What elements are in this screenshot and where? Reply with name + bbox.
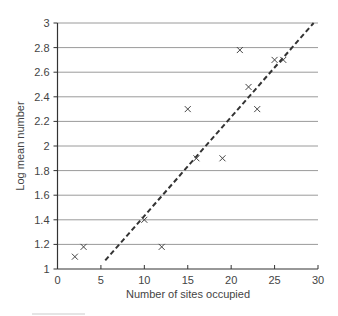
x-tick-label: 30 [312,274,324,286]
x-tick-label: 0 [54,274,60,286]
y-tick-label: 1 [43,263,49,275]
x-tick-label: 20 [225,274,237,286]
y-tick-label: 2.4 [34,91,49,103]
data-points [72,47,286,260]
y-tick-label: 2.8 [34,42,49,54]
x-marker [219,155,225,161]
y-tick-label: 1.6 [34,189,49,201]
x-marker [185,106,191,112]
x-marker [254,106,260,112]
gridlines [58,23,319,244]
x-tick-label: 10 [138,274,150,286]
x-tick-label: 5 [98,274,104,286]
x-marker [72,254,78,260]
x-marker [246,84,252,90]
scatter-chart: 11.21.41.61.822.22.42.62.83051015202530 … [0,0,338,316]
x-tick-label: 15 [182,274,194,286]
x-marker [272,57,278,63]
y-axis-title: Log mean number [14,101,26,191]
y-tick-label: 1.2 [34,238,49,250]
y-tick-label: 1.8 [34,165,49,177]
y-tick-label: 1.4 [34,214,49,226]
x-tick-label: 25 [268,274,280,286]
y-tick-label: 3 [43,17,49,29]
y-tick-label: 2 [43,140,49,152]
y-tick-label: 2.2 [34,115,49,127]
y-tick-label: 2.6 [34,66,49,78]
x-axis-title: Number of sites occupied [126,288,250,300]
